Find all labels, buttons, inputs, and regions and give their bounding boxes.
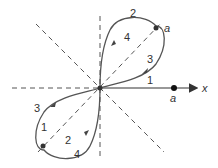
upper-label-2: 2 <box>130 7 136 19</box>
lower-lobe-tip-point <box>41 144 46 149</box>
diagram: x a a 2 4 3 1 3 1 2 4 <box>0 0 218 168</box>
lower-label-3: 3 <box>34 102 40 114</box>
arrow-upper-left <box>111 40 116 46</box>
upper-tip-label: a <box>164 22 170 34</box>
arrow-lower-right <box>84 130 89 136</box>
lower-label-2: 2 <box>65 134 71 146</box>
x-axis-label: x <box>201 82 208 94</box>
upper-lobe-tip-point <box>154 26 159 31</box>
lower-label-1: 1 <box>41 121 47 133</box>
lower-label-4: 4 <box>74 148 80 160</box>
lemniscate-diagram: x a a 2 4 3 1 3 1 2 4 <box>0 0 218 168</box>
upper-label-4: 4 <box>124 31 130 43</box>
upper-label-1: 1 <box>147 74 153 86</box>
origin-point <box>98 86 103 91</box>
x-point-label: a <box>170 92 176 104</box>
x-axis-point <box>171 85 177 91</box>
upper-label-3: 3 <box>147 53 153 65</box>
